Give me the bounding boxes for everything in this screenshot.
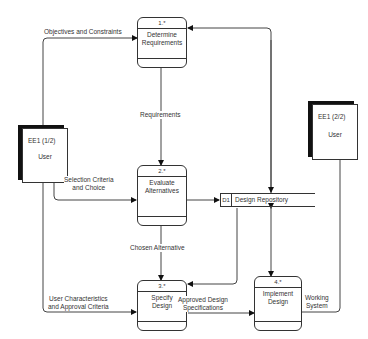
process-evaluate-alternatives[interactable]: 2.* EvaluateAlternatives bbox=[137, 165, 187, 226]
entity-name: User bbox=[313, 131, 357, 138]
process-footer bbox=[138, 321, 186, 330]
flow-label-selection: Selection Criteriaand Choice bbox=[64, 176, 114, 192]
process-name: DetermineRequirements bbox=[138, 29, 186, 47]
process-determine-requirements[interactable]: 1.* DetermineRequirements bbox=[137, 17, 187, 68]
process-id: 1.* bbox=[138, 18, 186, 29]
process-footer bbox=[255, 321, 301, 330]
process-id: 4.* bbox=[255, 277, 301, 288]
process-implement-design[interactable]: 4.* ImplementDesign bbox=[254, 276, 302, 331]
process-footer bbox=[138, 58, 186, 67]
data-store-design-repository[interactable]: D1 Design Repository bbox=[220, 193, 315, 207]
store-id: D1 bbox=[221, 194, 232, 206]
store-name: Design Repository bbox=[235, 194, 288, 206]
process-name: ImplementDesign bbox=[255, 288, 301, 306]
entity-user-1[interactable]: EE1 (1/2) User bbox=[22, 128, 68, 183]
flow-label-working-system: WorkingSystem bbox=[305, 294, 329, 310]
entity-name: User bbox=[23, 153, 67, 160]
flow-label-requirements: Requirements bbox=[140, 111, 180, 119]
entity-id: EE1 (2/2) bbox=[318, 113, 345, 120]
process-id: 2.* bbox=[138, 166, 186, 177]
entity-id: EE1 (1/2) bbox=[28, 137, 55, 144]
flow-label-approved-design: Approved DesignSpecifications bbox=[178, 296, 228, 312]
process-name: EvaluateAlternatives bbox=[138, 177, 186, 195]
flow-label-objectives: Objectives and Constraints bbox=[44, 28, 122, 36]
process-id: 3.* bbox=[138, 281, 186, 292]
process-footer bbox=[138, 216, 186, 225]
flow-label-chosen-alternative: Chosen Alternative bbox=[130, 244, 185, 252]
flow-label-user-characteristics: User Characteristicsand Approval Criteri… bbox=[48, 295, 109, 311]
entity-user-2[interactable]: EE1 (2/2) User bbox=[312, 104, 358, 160]
